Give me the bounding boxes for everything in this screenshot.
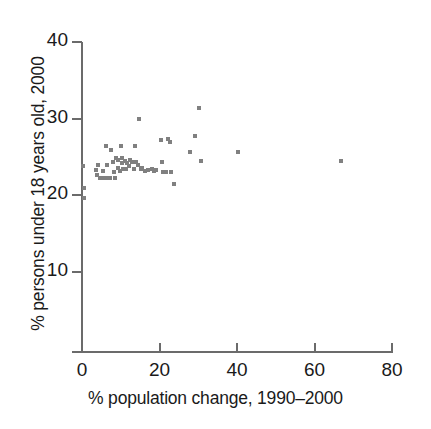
y-axis-tick xyxy=(72,194,82,196)
y-axis-tick xyxy=(72,271,82,273)
data-point xyxy=(169,170,173,174)
data-point xyxy=(101,169,105,173)
x-axis-tick xyxy=(314,343,316,353)
data-point xyxy=(164,170,168,174)
x-axis-tick-label: 20 xyxy=(130,359,190,381)
data-point xyxy=(109,148,113,152)
data-point xyxy=(94,168,98,172)
data-point xyxy=(119,144,123,148)
data-point xyxy=(111,160,115,164)
scatter-plot-figure: % persons under 18 years old, 2000 % pop… xyxy=(0,0,431,429)
data-point xyxy=(104,144,108,148)
data-point xyxy=(113,176,117,180)
data-point xyxy=(127,164,131,168)
x-axis-tick-label: 60 xyxy=(285,359,345,381)
data-point xyxy=(112,170,116,174)
data-point xyxy=(159,138,163,142)
data-point xyxy=(154,168,158,172)
data-point xyxy=(160,160,164,164)
x-axis-tick xyxy=(391,343,393,353)
data-point xyxy=(81,164,85,168)
x-axis-tick-label: 0 xyxy=(52,359,112,381)
data-point xyxy=(199,159,203,163)
y-axis-tick xyxy=(72,41,82,43)
data-point xyxy=(172,182,176,186)
x-axis-tick xyxy=(81,343,83,353)
y-axis-tick-label: 30 xyxy=(12,106,68,128)
data-point xyxy=(236,150,240,154)
data-point xyxy=(197,106,201,110)
data-point xyxy=(339,159,343,163)
data-point xyxy=(137,117,141,121)
data-point xyxy=(168,140,172,144)
x-axis-line xyxy=(72,351,392,353)
data-point xyxy=(133,144,137,148)
x-axis-tick-label: 40 xyxy=(207,359,267,381)
data-point xyxy=(82,196,86,200)
data-point xyxy=(193,134,197,138)
x-axis-tick xyxy=(236,343,238,353)
data-point xyxy=(108,176,112,180)
y-axis-tick-label: 10 xyxy=(12,259,68,281)
data-point xyxy=(105,163,109,167)
data-point xyxy=(96,163,100,167)
plot-area: 10203040020406080 xyxy=(0,0,431,429)
x-axis-tick xyxy=(159,343,161,353)
y-axis-tick xyxy=(72,118,82,120)
y-axis-tick-label: 20 xyxy=(12,182,68,204)
data-point xyxy=(82,186,86,190)
x-axis-tick-label: 80 xyxy=(362,359,422,381)
y-axis-tick-label: 40 xyxy=(12,29,68,51)
data-point xyxy=(188,150,192,154)
